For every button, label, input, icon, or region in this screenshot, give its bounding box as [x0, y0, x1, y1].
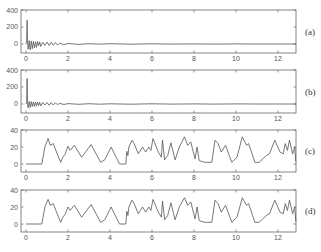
x-tick-label: 12	[274, 174, 282, 181]
y-tick-label: 400	[6, 7, 18, 14]
x-tick-label: 10	[232, 115, 240, 122]
x-tick-label: 6	[150, 55, 154, 62]
x-tick-label: 8	[192, 55, 196, 62]
panel-d: 02468101202040(d)	[10, 187, 315, 242]
y-tick-label: 20	[10, 144, 18, 151]
y-tick-label: 0	[14, 221, 18, 228]
series-line	[26, 137, 296, 164]
axes-frame	[21, 70, 296, 113]
panel-label: (c)	[305, 146, 315, 156]
x-tick-label: 2	[66, 234, 70, 241]
x-tick-label: 10	[232, 234, 240, 241]
y-tick-label: 40	[10, 127, 18, 134]
x-tick-label: 6	[150, 115, 154, 122]
y-tick-label: 0	[14, 40, 18, 47]
axes-frame	[21, 10, 296, 53]
series-line	[26, 20, 296, 50]
y-tick-label: 400	[6, 67, 18, 74]
x-tick-label: 10	[232, 55, 240, 62]
axes-frame	[21, 190, 296, 232]
panel-label: (d)	[305, 206, 316, 216]
x-tick-label: 4	[108, 55, 112, 62]
x-tick-label: 0	[24, 234, 28, 241]
panel-label: (a)	[305, 27, 315, 37]
axes-frame	[21, 130, 296, 172]
x-tick-label: 4	[108, 115, 112, 122]
x-tick-label: 12	[274, 234, 282, 241]
x-tick-label: 2	[66, 55, 70, 62]
series-line	[26, 79, 296, 108]
y-tick-label: 20	[10, 204, 18, 211]
x-tick-label: 8	[192, 234, 196, 241]
y-tick-label: 40	[10, 187, 18, 194]
x-tick-label: 0	[24, 55, 28, 62]
x-tick-label: 6	[150, 174, 154, 181]
y-tick-label: 200	[6, 83, 18, 90]
panel-c: 02468101202040(c)	[10, 127, 315, 182]
x-tick-label: 6	[150, 234, 154, 241]
x-tick-label: 0	[24, 115, 28, 122]
x-tick-label: 4	[108, 174, 112, 181]
panel-a: 0246810120200400(a)	[6, 7, 315, 63]
y-tick-label: 0	[14, 100, 18, 107]
x-tick-label: 2	[66, 174, 70, 181]
figure: 0246810120200400(a)0246810120200400(b)02…	[0, 0, 321, 252]
x-tick-label: 12	[274, 115, 282, 122]
y-tick-label: 0	[14, 161, 18, 168]
x-tick-label: 12	[274, 55, 282, 62]
x-tick-label: 8	[192, 174, 196, 181]
x-tick-label: 0	[24, 174, 28, 181]
panel-b: 0246810120200400(b)	[6, 67, 315, 123]
panel-label: (b)	[305, 87, 316, 97]
series-line	[26, 198, 296, 224]
x-tick-label: 4	[108, 234, 112, 241]
x-tick-label: 10	[232, 174, 240, 181]
x-tick-label: 2	[66, 115, 70, 122]
y-tick-label: 200	[6, 23, 18, 30]
x-tick-label: 8	[192, 115, 196, 122]
